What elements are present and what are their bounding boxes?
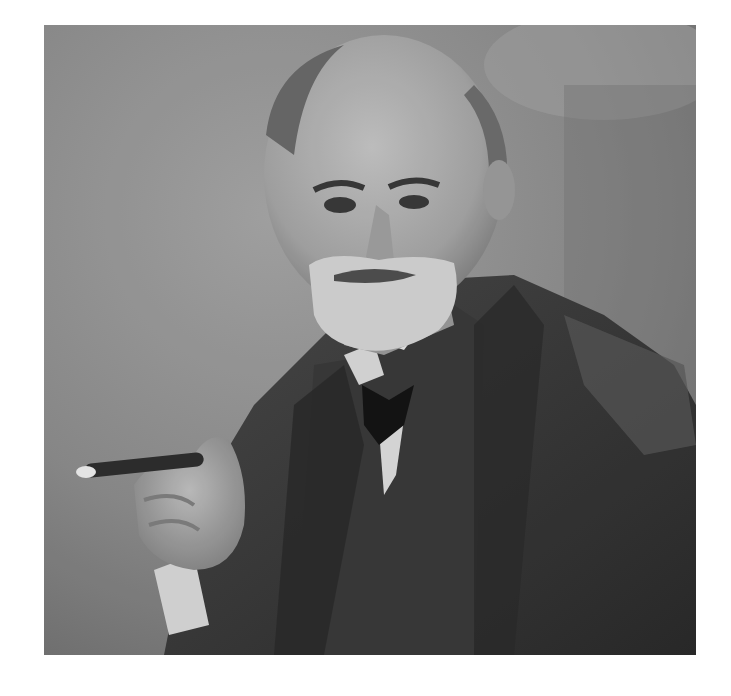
portrait-illustration — [44, 25, 696, 655]
portrait-photo — [44, 25, 696, 655]
